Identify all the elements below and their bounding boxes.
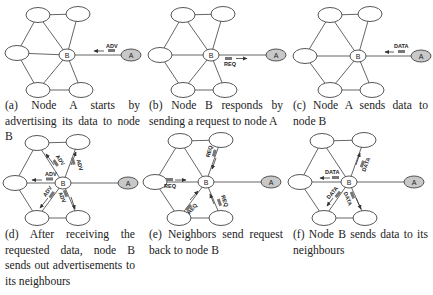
node-top-left bbox=[310, 134, 334, 149]
node-a-label: A bbox=[412, 179, 417, 186]
node-top-right bbox=[66, 7, 90, 22]
node-a-label: A bbox=[419, 53, 424, 60]
node-bottom-right bbox=[360, 83, 384, 98]
svg-text:REQ: REQ bbox=[224, 61, 237, 67]
node-bottom-right bbox=[353, 211, 377, 226]
node-a-label: A bbox=[269, 179, 274, 186]
node-left bbox=[288, 175, 312, 190]
node-top-right bbox=[209, 133, 233, 148]
adv-message-bottom-right: ADV bbox=[57, 190, 75, 209]
node-bottom-right bbox=[209, 211, 233, 226]
svg-text:DATA: DATA bbox=[325, 169, 339, 175]
packet-icon bbox=[46, 178, 53, 181]
svg-text:ADV: ADV bbox=[106, 43, 118, 49]
data-message: DATA bbox=[385, 43, 408, 53]
node-bottom-left bbox=[26, 83, 50, 98]
node-bottom-left bbox=[25, 211, 49, 226]
panel-c-graph: B A DATA bbox=[293, 7, 431, 98]
panel-d-graph: B A ADV ADV ADV AD bbox=[3, 135, 138, 226]
node-a-label: A bbox=[126, 180, 131, 187]
node-top-left bbox=[171, 8, 195, 23]
caption-c: (c) Node A sends data to node B bbox=[293, 98, 428, 129]
node-bottom-left bbox=[312, 211, 336, 226]
caption-e: (e) Neighbors send request back to node … bbox=[149, 227, 283, 258]
panel-a-graph: B A ADV bbox=[5, 7, 141, 98]
node-bottom-left bbox=[318, 83, 342, 98]
node-b-label: B bbox=[65, 52, 70, 59]
node-left bbox=[293, 49, 317, 64]
adv-message-left: ADV bbox=[32, 171, 57, 181]
node-top-left bbox=[168, 134, 192, 149]
node-b-label: B bbox=[209, 52, 214, 59]
data-message-left: DATA bbox=[320, 169, 339, 179]
adv-message: ADV bbox=[94, 43, 118, 52]
node-top-right bbox=[211, 7, 235, 22]
packet-icon bbox=[332, 176, 339, 179]
packet-icon bbox=[225, 57, 232, 60]
data-message-bottom-right: DATA bbox=[343, 189, 361, 209]
svg-text:REQ: REQ bbox=[220, 194, 230, 208]
node-left bbox=[3, 176, 27, 191]
packet-icon bbox=[166, 178, 173, 181]
node-left bbox=[5, 46, 29, 61]
node-bottom-right bbox=[69, 83, 93, 98]
req-message-bottom-right: REQ bbox=[210, 194, 230, 210]
node-bottom-right bbox=[213, 83, 237, 98]
node-top-right bbox=[352, 133, 376, 148]
svg-text:DATA: DATA bbox=[325, 185, 339, 200]
node-b-label: B bbox=[356, 53, 361, 60]
svg-text:ADV: ADV bbox=[45, 171, 57, 177]
caption-b: (b) Node B responds by sending a request… bbox=[149, 98, 283, 129]
caption-d: (d) After receiving the requested data, … bbox=[5, 227, 135, 289]
edges bbox=[15, 142, 128, 218]
req-message-left: REQ bbox=[164, 178, 186, 189]
svg-text:ADV: ADV bbox=[75, 159, 84, 172]
node-top-right bbox=[358, 7, 382, 22]
caption-a: (a) Node A starts by advertising its dat… bbox=[5, 98, 140, 145]
req-message: REQ bbox=[224, 57, 247, 67]
svg-text:DATA: DATA bbox=[394, 43, 408, 49]
packet-icon bbox=[398, 50, 405, 53]
node-left bbox=[148, 48, 172, 63]
node-bottom-left bbox=[171, 83, 195, 98]
req-message-top-right: REQ bbox=[205, 144, 218, 169]
edges bbox=[300, 140, 414, 218]
panel-b-graph: B A REQ bbox=[148, 7, 286, 98]
node-b-label: B bbox=[347, 179, 352, 186]
node-top-left bbox=[318, 8, 342, 23]
panel-f-graph: B A DATA DATA DATA bbox=[288, 133, 424, 226]
node-a-label: A bbox=[129, 52, 134, 59]
node-b-label: B bbox=[204, 179, 209, 186]
node-top-left bbox=[26, 8, 50, 23]
adv-message-bottom-left: ADV bbox=[40, 185, 57, 208]
node-bottom-right bbox=[66, 211, 90, 226]
packet-icon bbox=[108, 49, 115, 52]
node-b-label: B bbox=[61, 180, 66, 187]
panel-e-graph: B A REQ REQ REQ RE bbox=[143, 133, 281, 226]
caption-f: (f) Node B sends data to its neighbours bbox=[293, 227, 428, 258]
node-a-label: A bbox=[274, 52, 279, 59]
svg-text:REQ: REQ bbox=[164, 183, 177, 189]
